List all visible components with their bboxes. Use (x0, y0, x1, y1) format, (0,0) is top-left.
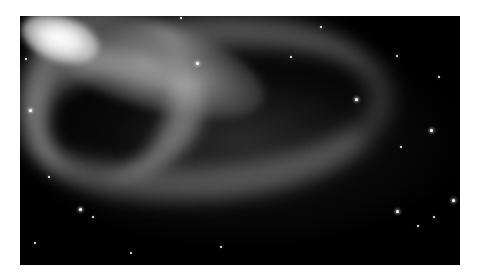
star (29, 109, 32, 112)
star (400, 146, 402, 148)
galaxy-photo (20, 16, 460, 265)
star (355, 98, 358, 101)
star (396, 210, 399, 213)
star (417, 225, 419, 227)
star (196, 62, 199, 65)
star (130, 252, 132, 254)
star (320, 26, 322, 28)
star (48, 176, 50, 178)
star (396, 55, 398, 57)
star (180, 17, 182, 19)
star (92, 216, 94, 218)
star (290, 56, 292, 58)
star (79, 208, 82, 211)
star (438, 76, 440, 78)
star (452, 199, 455, 202)
star (220, 246, 222, 248)
star (433, 216, 435, 218)
star (430, 129, 433, 132)
star (34, 242, 36, 244)
star (25, 58, 27, 60)
